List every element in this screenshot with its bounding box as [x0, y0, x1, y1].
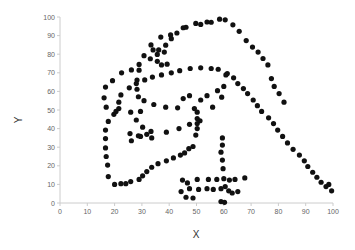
data-point [129, 67, 134, 72]
x-tick-label: 30 [138, 208, 146, 215]
y-tick-label: 30 [47, 144, 55, 151]
data-point [119, 70, 124, 75]
data-point [230, 190, 235, 195]
data-point [103, 127, 108, 132]
data-point [227, 178, 232, 183]
data-point [216, 67, 221, 72]
data-point [110, 78, 115, 83]
data-point [305, 164, 310, 169]
data-point [195, 177, 200, 182]
data-point [144, 169, 149, 174]
data-point [150, 74, 155, 79]
data-point [266, 115, 271, 120]
data-point [193, 21, 198, 26]
data-point [128, 110, 133, 115]
data-point [187, 93, 192, 98]
data-point [163, 43, 168, 48]
data-point [198, 65, 203, 70]
data-point [209, 66, 214, 71]
data-point [156, 47, 161, 52]
data-points [101, 17, 334, 205]
data-point [105, 162, 110, 167]
data-point [318, 180, 323, 185]
data-point [136, 133, 141, 138]
data-point [159, 62, 164, 67]
data-point [244, 38, 249, 43]
data-point [112, 182, 117, 187]
x-tick-label: 40 [165, 208, 173, 215]
data-point [129, 138, 134, 143]
data-point [169, 70, 174, 75]
data-point [149, 165, 154, 170]
data-point [103, 85, 108, 90]
data-point [106, 174, 111, 179]
data-point [326, 182, 331, 187]
axes: 0102030405060708090100010203040506070809… [43, 14, 339, 216]
data-point [220, 166, 225, 171]
data-point [141, 53, 146, 58]
data-point [218, 150, 223, 155]
data-point [232, 177, 237, 182]
data-point [211, 187, 216, 192]
data-point [198, 97, 203, 102]
data-point [106, 119, 111, 124]
data-point [134, 81, 139, 86]
data-point [118, 92, 123, 97]
y-tick-label: 80 [47, 51, 55, 58]
data-point [277, 91, 282, 96]
data-point [220, 157, 225, 162]
data-point [103, 145, 108, 150]
data-point [272, 84, 277, 89]
data-point [241, 86, 246, 91]
data-point [103, 136, 108, 141]
data-point [217, 17, 222, 22]
y-tick-label: 20 [47, 162, 55, 169]
data-point [174, 30, 179, 35]
x-tick-label: 0 [58, 208, 62, 215]
data-point [221, 84, 226, 89]
x-tick-label: 10 [83, 208, 91, 215]
data-point [251, 97, 256, 102]
data-point [223, 72, 228, 77]
data-point [181, 25, 186, 30]
data-point [196, 187, 201, 192]
data-point [271, 121, 276, 126]
data-point [190, 195, 195, 200]
data-point [104, 154, 109, 159]
data-point [136, 177, 141, 182]
data-point [221, 176, 226, 181]
data-point [255, 49, 260, 54]
data-point [237, 29, 242, 34]
data-point [230, 22, 235, 27]
data-point [220, 142, 225, 147]
data-point [136, 94, 141, 99]
data-point [187, 186, 192, 191]
x-tick-label: 50 [193, 208, 201, 215]
data-point [162, 49, 167, 54]
x-axis-label: X [193, 229, 200, 240]
data-point [164, 158, 169, 163]
data-point [210, 105, 215, 110]
data-point [219, 95, 224, 100]
data-point [281, 100, 286, 105]
data-point [136, 62, 141, 67]
data-point [242, 175, 247, 180]
data-point [142, 77, 147, 82]
data-point [186, 146, 191, 151]
data-point [280, 134, 285, 139]
data-point [214, 177, 219, 182]
data-point [275, 127, 280, 132]
data-point [204, 186, 209, 191]
data-point [245, 91, 250, 96]
data-point [118, 181, 123, 186]
data-point [204, 93, 209, 98]
data-point [155, 161, 160, 166]
y-tick-label: 60 [47, 88, 55, 95]
data-point [314, 175, 319, 180]
data-point [175, 105, 180, 110]
data-point [222, 200, 227, 205]
data-point [185, 180, 190, 185]
data-point [195, 110, 200, 115]
data-point [183, 195, 188, 200]
data-point [148, 56, 153, 61]
